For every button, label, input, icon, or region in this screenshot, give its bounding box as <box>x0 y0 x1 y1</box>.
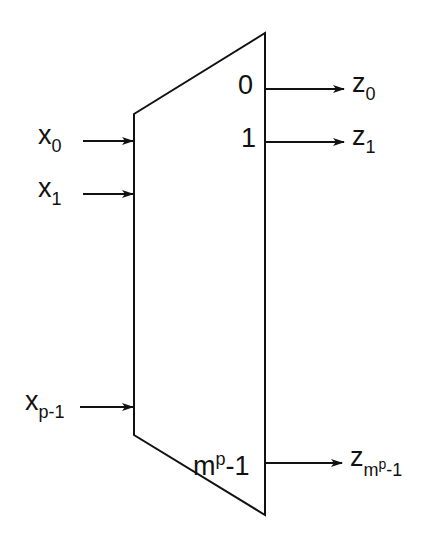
decoder-block <box>134 33 265 515</box>
input-subscript: 0 <box>52 136 62 156</box>
output-label-z0: z0 <box>352 70 376 103</box>
output-label-z1: z1 <box>352 123 376 156</box>
output-subscript: mp-1 <box>364 460 403 480</box>
output-label-zmp-1: zmp-1 <box>350 444 402 479</box>
input-subscript: p-1 <box>39 402 65 422</box>
input-base: x <box>25 386 39 416</box>
port-label-1: 1 <box>241 125 256 152</box>
input-label-xp-1: xp-1 <box>25 388 65 421</box>
port-superscript: p <box>216 449 226 469</box>
output-subscript: 0 <box>366 84 376 104</box>
port-label-mp-1: mp-1 <box>193 450 250 480</box>
output-base: z <box>350 442 364 472</box>
input-subscript: 1 <box>52 189 62 209</box>
output-subscript-base: m <box>364 460 379 480</box>
input-base: x <box>38 120 52 150</box>
input-label-x0: x0 <box>38 122 62 155</box>
input-base: x <box>38 173 52 203</box>
output-base: z <box>352 121 366 151</box>
output-subscript-suffix: -1 <box>386 460 402 480</box>
output-base: z <box>352 68 366 98</box>
output-subscript: 1 <box>366 137 376 157</box>
port-label-0: 0 <box>238 72 253 99</box>
port-base: m <box>193 451 216 481</box>
port-suffix: -1 <box>226 451 250 481</box>
input-label-x1: x1 <box>38 175 62 208</box>
